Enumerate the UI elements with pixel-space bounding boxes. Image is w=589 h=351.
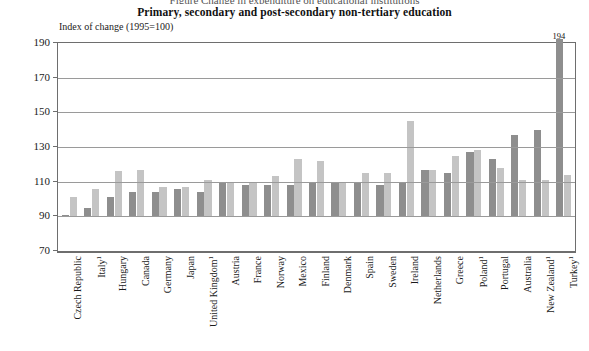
bar-italy-0 <box>84 208 91 217</box>
bar-sweden-1 <box>384 173 391 216</box>
bar-canada-1 <box>137 170 144 217</box>
bottom-axis-rule <box>57 252 576 253</box>
x-axis-label-czechrepublic: Czech Republic <box>72 256 83 320</box>
bar-ireland-0 <box>399 182 406 217</box>
bar-sweden-0 <box>376 185 383 216</box>
y-tick-label-190: 190 <box>0 36 50 48</box>
bar-unitedkingdom-0 <box>197 192 204 216</box>
gridline-130 <box>58 147 575 148</box>
x-axis-label-unitedkingdom: United Kingdom1 <box>207 256 219 327</box>
y-tick-mark-130 <box>53 146 57 147</box>
bar-italy-1 <box>92 189 99 217</box>
bar-austria-0 <box>219 183 226 216</box>
bar-canada-0 <box>129 192 136 216</box>
bar-greece-0 <box>444 173 451 216</box>
x-axis-label-netherlands: Netherlands <box>432 256 443 304</box>
y-tick-label-130: 130 <box>0 140 50 152</box>
y-tick-mark-190 <box>53 42 57 43</box>
x-axis-label-newzealand: New Zealand1 <box>544 256 556 313</box>
bar-denmark-1 <box>339 182 346 217</box>
bar-spain-0 <box>354 183 361 216</box>
x-axis-label-mexico: Mexico <box>297 256 308 287</box>
x-axis-label-sweden: Sweden <box>387 256 398 288</box>
y-tick-mark-70 <box>53 250 57 251</box>
bar-germany-1 <box>159 187 166 216</box>
bar-greece-1 <box>452 156 459 217</box>
x-axis-label-finland: Finland <box>320 256 331 287</box>
bar-hungary-0 <box>107 197 114 216</box>
y-tick-label-150: 150 <box>0 105 50 117</box>
x-axis-label-turkey: Turkey1 <box>567 256 579 288</box>
x-axis-label-austria: Austria <box>230 256 241 285</box>
y-tick-label-70: 70 <box>0 244 50 256</box>
bar-netherlands-1 <box>429 170 436 217</box>
x-axis-label-norway: Norway <box>275 256 286 288</box>
y-axis-note: Index of change (1995=100) <box>59 21 173 32</box>
y-tick-mark-170 <box>53 77 57 78</box>
bar-spain-1 <box>362 173 369 216</box>
y-tick-label-110: 110 <box>0 175 50 187</box>
bar-japan-1 <box>182 187 189 216</box>
x-axis-labels: Czech RepublicItaly1HungaryCanadaGermany… <box>57 256 576 351</box>
x-axis-label-australia: Australia <box>522 256 533 293</box>
y-tick-mark-90 <box>53 215 57 216</box>
bar-norway-0 <box>264 185 271 216</box>
gridline-150 <box>58 112 575 113</box>
bar-poland-1 <box>474 150 481 216</box>
bar-austria-1 <box>227 182 234 217</box>
bar-ireland-1 <box>407 121 414 216</box>
bar-germany-0 <box>152 192 159 216</box>
y-tick-label-170: 170 <box>0 71 50 83</box>
chart-title: Primary, secondary and post-secondary no… <box>0 6 589 18</box>
x-axis-label-denmark: Denmark <box>342 256 353 293</box>
bar-poland-0 <box>466 152 473 216</box>
gridline-170 <box>58 78 575 79</box>
x-axis-label-portugal: Portugal <box>499 256 510 290</box>
bar-netherlands-0 <box>421 170 428 217</box>
bar-denmark-0 <box>331 183 338 216</box>
bar-mexico-1 <box>294 159 301 216</box>
x-axis-label-poland: Poland1 <box>477 256 489 287</box>
x-axis-label-spain: Spain <box>364 256 375 279</box>
bar-unitedkingdom-1 <box>204 180 211 216</box>
bar-australia-1 <box>519 180 526 216</box>
y-tick-mark-150 <box>53 111 57 112</box>
x-axis-label-germany: Germany <box>162 256 173 293</box>
x-axis-label-canada: Canada <box>140 256 151 286</box>
x-axis-label-greece: Greece <box>454 256 465 284</box>
bar-newzealand-0 <box>534 130 541 217</box>
value-label-turkey: 194 <box>552 31 565 41</box>
x-axis-label-italy: Italy1 <box>95 256 107 278</box>
y-tick-mark-110 <box>53 181 57 182</box>
bar-portugal-1 <box>497 168 504 217</box>
clipped-figure-caption: Figure Change in expenditure on educatio… <box>0 0 589 4</box>
plot-area <box>57 42 576 252</box>
x-axis-label-japan: Japan <box>185 256 196 279</box>
x-axis-label-france: France <box>252 256 263 283</box>
gridline-110 <box>58 182 575 183</box>
x-axis-label-ireland: Ireland <box>409 256 420 284</box>
bar-hungary-1 <box>115 171 122 216</box>
bar-france-1 <box>249 182 256 217</box>
bar-finland-0 <box>309 182 316 217</box>
bar-finland-1 <box>317 161 324 216</box>
x-axis-label-hungary: Hungary <box>117 256 128 291</box>
bar-czechrepublic-1 <box>70 197 77 216</box>
bar-france-0 <box>242 185 249 216</box>
bar-mexico-0 <box>287 185 294 216</box>
bar-newzealand-1 <box>542 180 549 216</box>
y-tick-label-90: 90 <box>0 209 50 221</box>
gridline-90 <box>58 216 575 217</box>
bar-japan-0 <box>174 189 181 217</box>
bar-turkey-0 <box>556 39 563 216</box>
bar-portugal-0 <box>489 159 496 216</box>
